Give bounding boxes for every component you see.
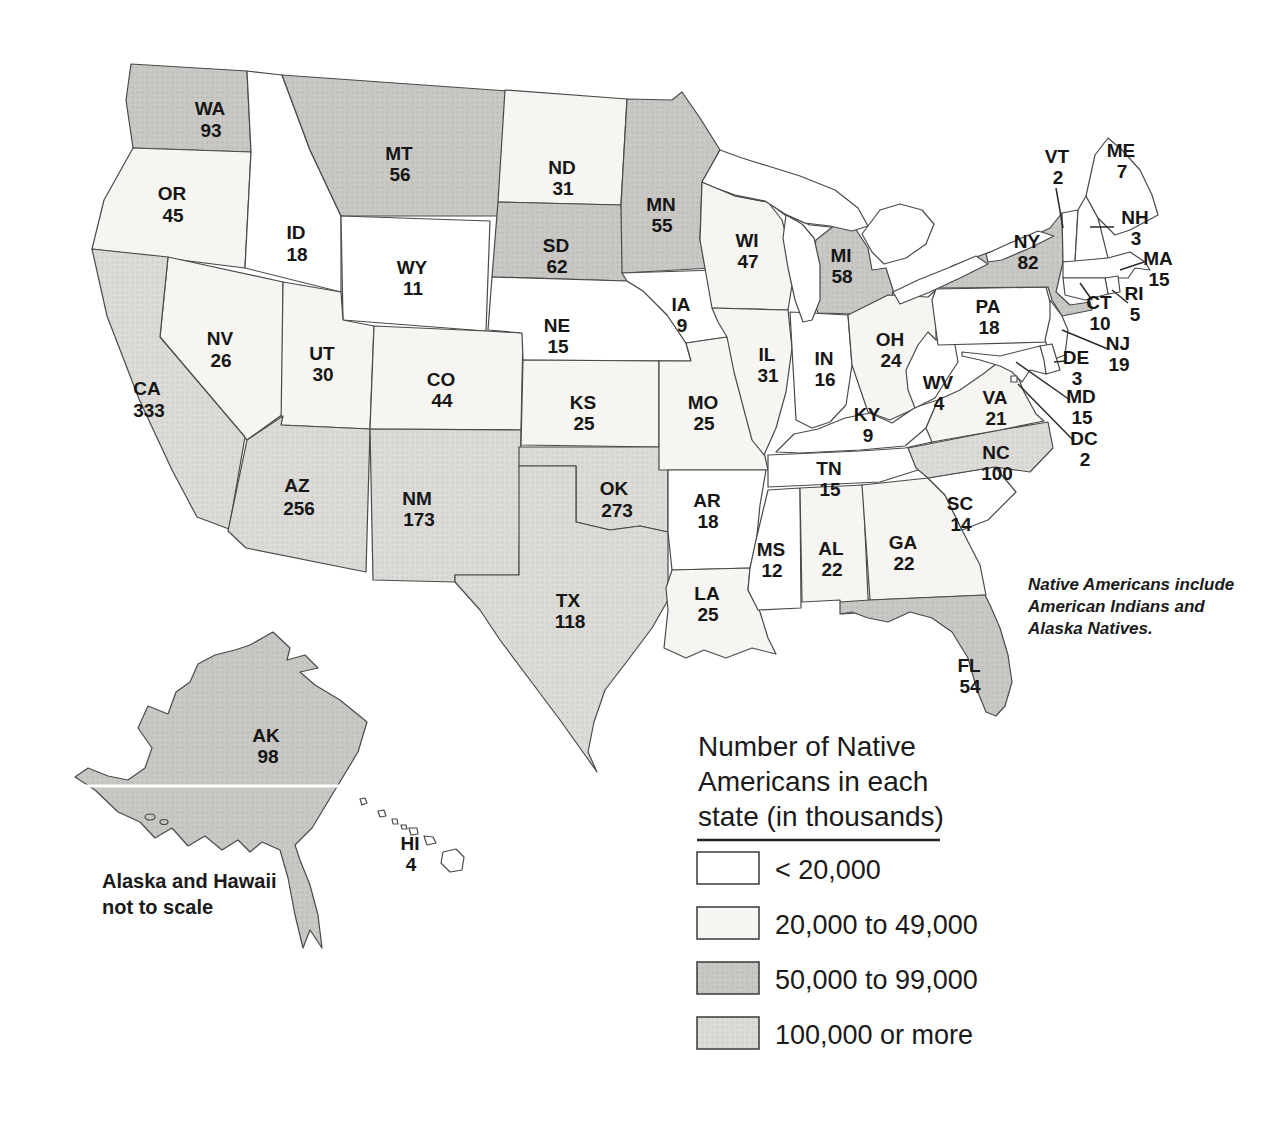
hi-island-7	[441, 849, 464, 872]
legend-label-100000-or-more: 100,000 or more	[775, 1020, 973, 1050]
state-label-or: OR45	[158, 183, 187, 226]
hi-island-3	[392, 819, 398, 824]
scale-note: Alaska and Hawaiinot to scale	[102, 870, 277, 918]
state-label-ca: CA333	[133, 378, 165, 421]
legend-swatch-20000-49000	[697, 907, 759, 939]
state-label-va: VA21	[983, 387, 1008, 429]
hi-island-6	[424, 836, 436, 845]
state-label-ms: MS12	[757, 539, 786, 581]
state-label-ga: GA22	[889, 532, 918, 574]
hi-island-2	[378, 810, 386, 817]
legend-swatch-100000-or-more	[697, 1017, 759, 1049]
state-label-wi: WI47	[735, 230, 758, 272]
state-label-mt: MT56	[385, 143, 413, 185]
state-label-ny: NY82	[1014, 231, 1041, 273]
legend: Number of NativeAmericans in eachstate (…	[697, 731, 978, 1050]
state-label-oh: OH24	[876, 329, 905, 371]
state-label-fl: FL54	[957, 655, 981, 697]
state-label-md: MD15	[1066, 386, 1096, 428]
state-label-vt: VT2	[1045, 146, 1070, 188]
state-label-ks: KS25	[570, 392, 596, 434]
state-label-nm: NM173	[402, 488, 435, 530]
state-label-nv: NV26	[207, 328, 234, 371]
state-label-ar: AR18	[693, 490, 721, 532]
state-wa	[126, 64, 251, 152]
state-label-ma: MA15	[1143, 248, 1173, 290]
legend-label-50000-99000: 50,000 to 99,000	[775, 965, 978, 995]
inclusion-note-text: Native Americans includeAmerican Indians…	[1027, 575, 1234, 638]
state-label-nj: NJ19	[1106, 333, 1130, 375]
scale-note-text: Alaska and Hawaiinot to scale	[102, 870, 277, 918]
legend-title: Number of NativeAmericans in eachstate (…	[698, 731, 944, 832]
state-dc	[1011, 376, 1017, 382]
state-label-pa: PA18	[976, 296, 1001, 338]
us-choropleth-map: WA93 OR45 CA333 ID18 NV26 UT30 AZ256 MT5…	[0, 0, 1274, 1122]
state-label-co: CO44	[427, 369, 456, 411]
state-label-id: ID18	[286, 222, 307, 265]
state-nm	[370, 429, 521, 582]
state-label-dc: DC2	[1070, 428, 1098, 470]
state-label-sd: SD62	[543, 235, 569, 277]
state-label-nd: ND31	[548, 157, 575, 199]
legend-label-lt-20000: < 20,000	[775, 855, 881, 885]
ak-island-2	[160, 820, 168, 825]
state-label-sc: SC14	[947, 493, 974, 535]
legend-label-20000-49000: 20,000 to 49,000	[775, 910, 978, 940]
hi-island-1	[360, 798, 367, 805]
state-label-ct: CT10	[1086, 292, 1112, 334]
state-label-al: AL22	[818, 538, 844, 580]
state-label-de: DE3	[1063, 347, 1089, 389]
state-label-ne: NE15	[544, 315, 570, 357]
state-fl	[840, 595, 1012, 716]
state-label-hi: HI4	[401, 833, 420, 875]
legend-swatch-50000-99000	[697, 962, 759, 994]
ak-island-1	[145, 814, 155, 820]
state-label-nc: NC100	[981, 442, 1013, 484]
state-label-la: LA25	[694, 583, 720, 625]
inclusion-note: Native Americans includeAmerican Indians…	[1027, 575, 1234, 638]
legend-swatch-lt-20000	[697, 852, 759, 884]
state-label-mi: MI58	[830, 245, 852, 287]
state-label-ok: OK273	[600, 478, 633, 521]
lake-huron	[862, 204, 934, 264]
state-label-tn: TN15	[816, 458, 841, 500]
state-label-ut: UT30	[309, 343, 335, 385]
state-label-in: IN16	[814, 348, 835, 390]
state-label-ri: RI5	[1125, 283, 1144, 325]
hi-island-4	[401, 825, 407, 829]
state-label-mn: MN55	[646, 194, 676, 236]
